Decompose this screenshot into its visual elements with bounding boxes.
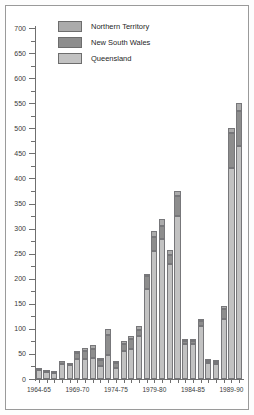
- bar-segment-nsw: [43, 370, 49, 372]
- x-axis-tick: [147, 379, 148, 383]
- bar-segment-nt: [182, 339, 188, 341]
- bar-1971-72: [90, 28, 96, 379]
- x-axis-tick: [124, 379, 125, 383]
- bar-segment-qld: [105, 355, 111, 379]
- x-axis-tick: [224, 379, 225, 383]
- bar-segment-qld: [59, 364, 65, 379]
- bar-segment-qld: [228, 168, 234, 379]
- bar-1965-66: [43, 28, 49, 379]
- x-axis-tick: [154, 379, 155, 383]
- bar-segment-nt: [113, 361, 119, 363]
- bar-segment-nt: [74, 351, 80, 353]
- bar-segment-nsw: [97, 360, 103, 366]
- x-axis-tick: [162, 379, 163, 383]
- legend-label: Northern Territory: [91, 22, 149, 31]
- bar-segment-nt: [190, 339, 196, 341]
- y-axis-tick-label: 300: [0, 225, 26, 232]
- legend-item-nt: Northern Territory: [58, 18, 150, 34]
- x-axis-tick-label: 1974-75: [104, 386, 128, 393]
- bar-1974-75: [113, 28, 119, 379]
- bar-segment-nsw: [167, 255, 173, 264]
- bar-segment-nt: [236, 103, 242, 111]
- x-axis-tick: [131, 379, 132, 383]
- bar-segment-nsw: [36, 368, 42, 370]
- x-axis-tick: [93, 379, 94, 383]
- bar-segment-nsw: [228, 133, 234, 168]
- bar-segment-nt: [213, 360, 219, 362]
- bar-segment-qld: [128, 349, 134, 379]
- bar-segment-nsw: [90, 349, 96, 358]
- x-axis-tick: [201, 379, 202, 383]
- bar-segment-qld: [74, 359, 80, 379]
- bar-segment-nt: [121, 341, 127, 344]
- bar-1987-88: [213, 28, 219, 379]
- bar-segment-qld: [113, 368, 119, 379]
- x-axis-tick: [54, 379, 55, 383]
- bar-segment-nt: [105, 329, 111, 335]
- bar-segment-qld: [82, 359, 88, 379]
- bar-segment-nsw: [136, 330, 142, 336]
- bar-segment-qld: [167, 264, 173, 379]
- bar-segment-qld: [213, 364, 219, 379]
- bar-1979-80: [151, 28, 157, 379]
- x-axis-tick-label: 1969-70: [65, 386, 89, 393]
- bar-segment-nt: [128, 336, 134, 339]
- bar-1984-85: [190, 28, 196, 379]
- bar-segment-nt: [82, 348, 88, 351]
- bar-segment-nsw: [74, 353, 80, 359]
- bar-segment-nsw: [205, 361, 211, 363]
- bar-1967-68: [59, 28, 65, 379]
- bar-segment-nsw: [221, 309, 227, 319]
- bar-segment-qld: [190, 344, 196, 379]
- chart-figure: 0501001502002503003504004505005506006507…: [0, 0, 254, 415]
- x-axis-tick: [185, 379, 186, 383]
- y-axis-tick-label: 150: [0, 300, 26, 307]
- bar-1970-71: [82, 28, 88, 379]
- bar-segment-qld: [221, 319, 227, 379]
- x-axis-tick: [70, 379, 71, 383]
- legend-swatch-nt-icon: [58, 21, 82, 32]
- bar-segment-nt: [151, 231, 157, 237]
- bar-segment-qld: [151, 251, 157, 379]
- x-axis-tick: [108, 379, 109, 383]
- bar-1969-70: [74, 28, 80, 379]
- bar-1972-73: [97, 28, 103, 379]
- bar-segment-nsw: [159, 226, 165, 239]
- x-axis-tick-label: 1979-80: [142, 386, 166, 393]
- x-axis-tick: [47, 379, 48, 383]
- bar-segment-nt: [205, 359, 211, 361]
- y-axis-tick-label: 50: [0, 350, 26, 357]
- bar-segment-qld: [174, 216, 180, 379]
- bar-segment-nt: [159, 219, 165, 227]
- bar-segment-nsw: [151, 237, 157, 251]
- bar-segment-nsw: [59, 361, 65, 364]
- bar-1983-84: [182, 28, 188, 379]
- bar-segment-nt: [198, 319, 204, 322]
- bar-1986-87: [205, 28, 211, 379]
- legend-swatch-qld-icon: [58, 53, 82, 64]
- bar-1964-65: [36, 28, 42, 379]
- x-axis-tick: [62, 379, 63, 383]
- bar-segment-qld: [205, 363, 211, 379]
- bar-segment-nt: [221, 306, 227, 309]
- bar-segment-nt: [174, 191, 180, 196]
- bar-segment-nt: [228, 128, 234, 133]
- legend-swatch-nsw-icon: [58, 37, 82, 48]
- legend-item-qld: Queensland: [58, 50, 150, 66]
- x-axis-tick: [231, 379, 232, 383]
- bar-1982-83: [174, 28, 180, 379]
- y-axis-tick-label: 700: [0, 25, 26, 32]
- bar-segment-qld: [36, 370, 42, 379]
- bar-1981-82: [167, 28, 173, 379]
- x-axis-tick: [85, 379, 86, 383]
- bar-segment-nsw: [51, 371, 57, 373]
- bar-segment-qld: [67, 365, 73, 379]
- bar-segment-nsw: [105, 335, 111, 355]
- bar-segment-nsw: [198, 321, 204, 326]
- bar-segment-nsw: [67, 363, 73, 365]
- x-axis-tick: [239, 379, 240, 383]
- bar-series-group: [35, 28, 243, 379]
- bar-segment-qld: [97, 366, 103, 379]
- x-axis-tick: [208, 379, 209, 383]
- y-axis-tick-label: 650: [0, 50, 26, 57]
